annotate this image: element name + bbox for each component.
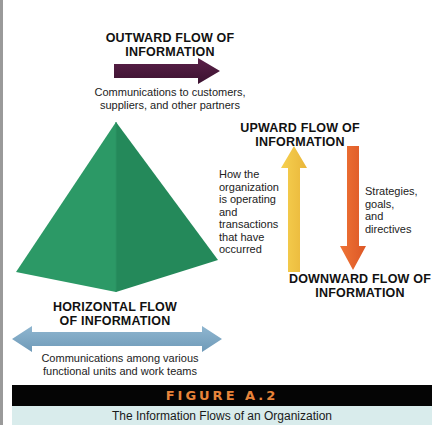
- outward-desc-line2: suppliers, and other partners: [70, 99, 270, 112]
- figure-caption: The Information Flows of an Organization: [112, 409, 332, 423]
- page-edge: [0, 0, 3, 425]
- downward-flow-heading: DOWNWARD FLOW OF INFORMATION: [275, 272, 445, 300]
- downward-desc-line: Strategies,: [365, 185, 435, 198]
- organization-pyramid-icon: [16, 120, 221, 295]
- figure-caption-band: The Information Flows of an Organization: [12, 406, 432, 425]
- downward-heading-line1: DOWNWARD FLOW OF: [275, 272, 445, 286]
- upward-arrow-icon: [281, 146, 307, 272]
- horizontal-arrow-icon: [12, 326, 222, 352]
- outward-heading-line1: OUTWARD FLOW OF: [80, 31, 260, 45]
- downward-heading-line2: INFORMATION: [275, 286, 445, 300]
- outward-arrow-icon: [114, 58, 224, 84]
- outward-desc-line1: Communications to customers,: [70, 86, 270, 99]
- horizontal-heading-line1: HORIZONTAL FLOW: [30, 300, 200, 314]
- downward-arrow-icon: [340, 146, 366, 270]
- downward-desc-line: and: [365, 210, 435, 223]
- downward-desc-line: goals,: [365, 198, 435, 211]
- downward-flow-description: Strategies, goals, and directives: [365, 185, 435, 235]
- horizontal-flow-description: Communications among various functional …: [20, 352, 220, 377]
- upward-heading-line1: UPWARD FLOW OF: [225, 121, 375, 135]
- horizontal-flow-heading: HORIZONTAL FLOW OF INFORMATION: [30, 300, 200, 328]
- outward-flow-description: Communications to customers, suppliers, …: [70, 86, 270, 111]
- downward-desc-line: directives: [365, 223, 435, 236]
- outward-flow-heading: OUTWARD FLOW OF INFORMATION: [80, 31, 260, 59]
- outward-heading-line2: INFORMATION: [80, 45, 260, 59]
- horizontal-desc-line2: functional units and work teams: [20, 365, 220, 378]
- figure-label: FIGURE A.2: [166, 388, 279, 403]
- upward-flow-heading: UPWARD FLOW OF INFORMATION: [225, 121, 375, 149]
- figure-label-bar: FIGURE A.2: [12, 385, 432, 406]
- horizontal-desc-line1: Communications among various: [20, 352, 220, 365]
